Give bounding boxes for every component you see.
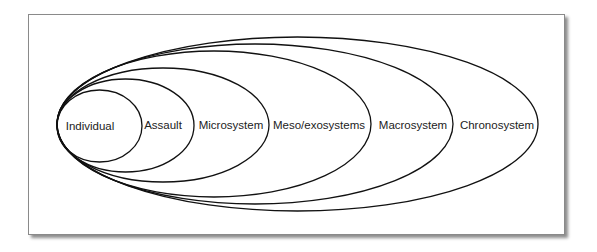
label-microsystem: Microsystem <box>199 119 264 131</box>
label-macrosystem: Macrosystem <box>379 119 447 131</box>
label-chronosystem: Chronosystem <box>460 119 534 131</box>
nested-systems-diagram: Individual Assault Microsystem Meso/exos… <box>0 0 597 252</box>
label-individual: Individual <box>66 120 115 132</box>
label-group: Individual Assault Microsystem Meso/exos… <box>66 119 534 132</box>
label-assault: Assault <box>144 119 183 131</box>
label-meso-exosystems: Meso/exosystems <box>273 119 365 131</box>
